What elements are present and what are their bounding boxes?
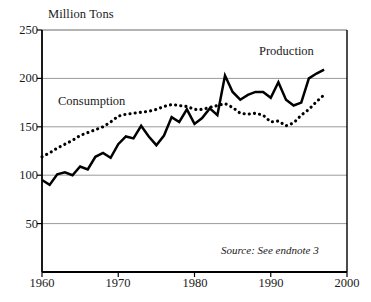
gridlines [42, 30, 347, 224]
axis-ticks [37, 30, 347, 277]
axis-frame [42, 30, 347, 272]
chart-container: Million Tons 250 200 150 100 50 1960 197… [0, 0, 371, 302]
series-line-consumption [42, 95, 324, 157]
chart-plot-svg [0, 0, 371, 302]
